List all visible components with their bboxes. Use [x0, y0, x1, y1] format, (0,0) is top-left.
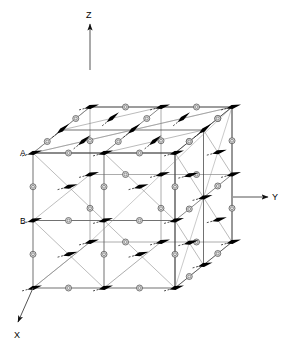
- spin-arrow: [78, 172, 99, 178]
- spin-arrow: [220, 172, 241, 178]
- spin-arrow-tail: [206, 154, 213, 156]
- spin-arrow: [193, 124, 211, 139]
- atom-site: [229, 138, 235, 144]
- atom-site: [101, 184, 107, 190]
- spin-arrow-tail: [163, 222, 170, 224]
- spin-arrow-tail: [21, 289, 28, 291]
- spin-arrow-tail: [56, 188, 63, 190]
- spin-arrow-tail: [78, 108, 85, 110]
- spin-arrow-tail: [92, 289, 99, 291]
- axis-system: Z Y X: [14, 10, 278, 340]
- spin-arrow: [149, 172, 170, 178]
- lattice-diagram: Z Y X A B: [0, 0, 291, 352]
- spin-arrow-tail: [177, 244, 184, 246]
- spin-arrow: [149, 105, 170, 111]
- atom-site: [229, 205, 235, 211]
- spin-arrow-tail: [172, 122, 178, 127]
- atom-site: [101, 251, 107, 257]
- x-axis-line: [18, 288, 33, 322]
- atom-site: [186, 139, 192, 145]
- atom-site: [194, 104, 200, 110]
- spin-arrows: [21, 105, 241, 292]
- spin-arrow-tail: [127, 188, 134, 190]
- atom-site: [215, 183, 221, 189]
- spin-arrow-tail: [72, 145, 78, 150]
- atom-site: [158, 138, 164, 144]
- spin-arrow-tail: [163, 289, 170, 291]
- atom-site: [137, 285, 143, 291]
- spin-arrow-tail: [149, 176, 156, 178]
- atom-site: [44, 139, 50, 145]
- atom-site: [215, 116, 221, 122]
- spin-arrow-tail: [92, 222, 99, 224]
- atom-site: [30, 251, 36, 257]
- spin-arrow: [206, 150, 227, 156]
- atom-site: [87, 205, 93, 211]
- spin-arrow-head: [198, 195, 213, 199]
- y-axis-label: Y: [272, 192, 278, 202]
- site-label-b: B: [20, 216, 26, 226]
- atom-site: [158, 205, 164, 211]
- atom-site: [123, 104, 129, 110]
- lattice-line: [33, 242, 90, 288]
- spin-arrow-tail: [101, 122, 107, 127]
- spin-arrow: [191, 263, 212, 269]
- atom-site: [186, 206, 192, 212]
- site-label-a: A: [20, 148, 26, 158]
- spin-arrow: [78, 240, 99, 246]
- atom-site: [215, 251, 221, 257]
- spin-arrow: [220, 240, 241, 246]
- lattice-line: [33, 175, 90, 221]
- spin-arrow-tail: [127, 256, 134, 258]
- atom-site: [30, 184, 36, 190]
- spin-arrow: [191, 195, 212, 201]
- spin-arrow-tail: [149, 243, 156, 245]
- spin-arrow-tail: [78, 243, 85, 245]
- spin-arrow-head: [198, 263, 213, 267]
- figure-canvas: Z Y X A B: [0, 0, 291, 352]
- atom-site: [66, 150, 72, 156]
- atom-site: [172, 251, 178, 257]
- atom-site: [87, 138, 93, 144]
- spin-arrow-tail: [191, 266, 198, 268]
- spin-arrow-tail: [78, 176, 85, 178]
- spin-arrow: [220, 105, 241, 111]
- atom-site: [66, 218, 72, 224]
- spin-arrow-tail: [92, 154, 99, 156]
- spin-arrow-tail: [143, 145, 149, 150]
- spin-arrow-tail: [163, 154, 170, 156]
- spin-arrow: [172, 112, 190, 127]
- spin-arrow: [206, 217, 227, 223]
- atom-site: [73, 116, 79, 122]
- spin-arrow-tail: [220, 176, 227, 178]
- spin-arrow-tail: [206, 221, 213, 223]
- atom-site: [186, 274, 192, 280]
- site-labels: A B: [20, 148, 26, 226]
- atom-site: [123, 172, 129, 178]
- spin-arrow: [149, 240, 170, 246]
- atom-site: [115, 139, 121, 145]
- spin-arrow-tail: [177, 177, 184, 179]
- lattice-line: [104, 242, 161, 288]
- spin-arrow: [92, 151, 113, 157]
- atom-site: [137, 218, 143, 224]
- spin-arrow-tail: [191, 199, 198, 201]
- spin-arrow-tail: [220, 243, 227, 245]
- atom-site: [123, 239, 129, 245]
- spin-arrow: [101, 112, 119, 127]
- spin-arrow-head: [212, 150, 227, 154]
- spin-arrow: [51, 124, 69, 139]
- spin-arrow: [122, 124, 140, 139]
- spin-arrow-head: [134, 184, 149, 188]
- spin-arrow-head: [212, 217, 227, 221]
- atom-site: [172, 184, 178, 190]
- x-axis-label: X: [14, 330, 20, 340]
- atom-site: [66, 285, 72, 291]
- atom-site: [144, 116, 150, 122]
- z-axis-label: Z: [86, 10, 92, 20]
- atom-site: [137, 150, 143, 156]
- spin-arrow: [78, 105, 99, 111]
- spin-arrow-tail: [56, 256, 63, 258]
